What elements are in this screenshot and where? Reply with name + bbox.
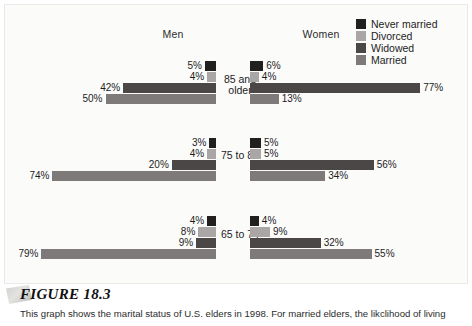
bar-value-label: 77% (423, 82, 443, 93)
bar-value-label: 6% (266, 60, 280, 71)
bar-value-label: 4% (262, 215, 276, 226)
bar-segment (250, 238, 321, 248)
figure-title: FIGURE 18.3 (20, 286, 111, 303)
bar-row: 77% (5, 83, 467, 93)
chart-plot-area: Men Women Never marriedDivorcedWidowedMa… (5, 5, 467, 283)
chart-panel: Men Women Never marriedDivorcedWidowedMa… (4, 4, 468, 284)
bar-row: 55% (5, 249, 467, 259)
bar-segment (250, 249, 372, 259)
bar-segment (250, 138, 261, 148)
bar-value-label: 55% (375, 248, 395, 259)
caption-area: FIGURE 18.3 This graph shows the marital… (0, 284, 472, 326)
bar-row: 6% (5, 61, 467, 71)
panel-header-women: Women (297, 28, 345, 40)
bar-row: 4% (5, 72, 467, 82)
bar-row: 56% (5, 160, 467, 170)
bar-segment (250, 61, 263, 71)
bar-value-label: 9% (273, 226, 287, 237)
legend-item: Never married (356, 18, 468, 30)
figure-caption: This graph shows the marital status of U… (20, 308, 464, 320)
legend-label: Divorced (371, 30, 412, 42)
legend-label: Widowed (371, 42, 414, 54)
bar-row: 5% (5, 149, 467, 159)
bar-row: 13% (5, 94, 467, 104)
bar-value-label: 34% (328, 170, 348, 181)
legend-swatch-icon (356, 43, 366, 53)
bar-segment (250, 216, 259, 226)
legend-item: Widowed (356, 42, 468, 54)
bar-row: 34% (5, 171, 467, 181)
bar-row: 9% (5, 227, 467, 237)
bar-segment (250, 72, 259, 82)
chart-legend: Never marriedDivorcedWidowedMarried (356, 18, 468, 66)
bar-value-label: 13% (282, 93, 302, 104)
bar-row: 32% (5, 238, 467, 248)
figure-18-3: Men Women Never marriedDivorcedWidowedMa… (0, 0, 472, 326)
bar-segment (250, 160, 374, 170)
legend-item: Divorced (356, 30, 468, 42)
legend-swatch-icon (356, 31, 366, 41)
bar-segment (250, 171, 325, 181)
bar-value-label: 5% (264, 137, 278, 148)
bar-value-label: 56% (377, 159, 397, 170)
bar-value-label: 4% (262, 71, 276, 82)
legend-swatch-icon (356, 19, 366, 29)
bar-segment (250, 227, 270, 237)
bar-row: 5% (5, 138, 467, 148)
bar-segment (250, 83, 420, 93)
bar-row: 4% (5, 216, 467, 226)
bar-value-label: 5% (264, 148, 278, 159)
panel-header-men: Men (153, 28, 193, 40)
bar-value-label: 32% (324, 237, 344, 248)
bar-segment (250, 149, 261, 159)
bar-segment (250, 94, 279, 104)
legend-label: Never married (371, 18, 438, 30)
